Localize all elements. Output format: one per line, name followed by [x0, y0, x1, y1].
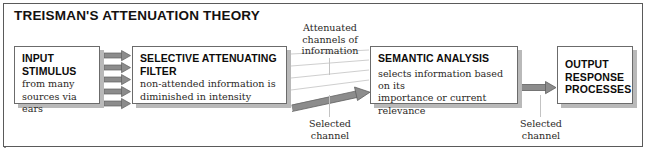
- selective-filter-heading: SELECTIVE ATTENUATING FILTER: [140, 52, 279, 77]
- input-stimulus-node: INPUT STIMULUS from many sources via ear…: [14, 46, 100, 104]
- output-response-heading-line1: OUTPUT: [565, 58, 625, 71]
- selected-channel-label-right: Selected channel: [504, 118, 578, 141]
- semantic-analysis-body-line1: selects information based on its: [378, 68, 510, 93]
- input-stimulus-body-line1: from many: [22, 78, 92, 90]
- selective-filter-body: non-attended information is diminished i…: [140, 78, 279, 103]
- selective-filter-heading-line2: FILTER: [140, 65, 279, 78]
- selected-channel-label-right-line2: channel: [504, 130, 578, 142]
- output-response-heading-line3: PROCESSES: [565, 83, 625, 96]
- attenuated-leader-line: [329, 58, 330, 75]
- semantic-analysis-heading: SEMANTIC ANALYSIS: [378, 52, 510, 65]
- attenuated-channels-label-line2: channels of: [286, 34, 374, 46]
- input-stimulus-heading: INPUT STIMULUS: [22, 52, 92, 77]
- selected-channel-label-left-line2: channel: [293, 130, 367, 142]
- selected-channel-label-left-line1: Selected: [293, 118, 367, 130]
- input-stimulus-heading-line1: INPUT: [22, 52, 92, 65]
- attenuated-channels-label-line3: information: [286, 45, 374, 57]
- attenuated-channels-label: Attenuated channels of information: [286, 22, 374, 57]
- attenuation-theory-diagram: TREISMAN'S ATTENUATION THEORY: [0, 0, 650, 156]
- selected-channel-arrow-right: [521, 82, 556, 94]
- selected-left-leader-line: [329, 95, 330, 117]
- semantic-analysis-heading-line1: SEMANTIC ANALYSIS: [378, 52, 510, 65]
- selective-filter-body-line2: diminished in intensity: [140, 91, 279, 103]
- selected-channel-arrow-left: [292, 87, 370, 112]
- attenuated-channels-label-line1: Attenuated: [286, 22, 374, 34]
- semantic-analysis-body-line2: importance or current relevance: [378, 92, 510, 117]
- selective-filter-node: SELECTIVE ATTENUATING FILTER non-attende…: [132, 46, 287, 104]
- semantic-analysis-node: SEMANTIC ANALYSIS selects information ba…: [370, 46, 518, 104]
- selective-filter-body-line1: non-attended information is: [140, 78, 279, 90]
- selected-right-leader-line: [540, 95, 541, 117]
- output-response-heading: OUTPUT RESPONSE PROCESSES: [565, 58, 625, 96]
- selected-channel-label-left: Selected channel: [293, 118, 367, 141]
- input-stimulus-heading-line2: STIMULUS: [22, 65, 92, 78]
- selected-channel-label-right-line1: Selected: [504, 118, 578, 130]
- selective-filter-heading-line1: SELECTIVE ATTENUATING: [140, 52, 279, 65]
- input-stimulus-body-line2: sources via ears: [22, 91, 92, 116]
- output-response-heading-line2: RESPONSE: [565, 71, 625, 84]
- semantic-analysis-body: selects information based on its importa…: [378, 68, 510, 118]
- output-response-node: OUTPUT RESPONSE PROCESSES: [557, 46, 633, 104]
- input-stimulus-body: from many sources via ears: [22, 78, 92, 115]
- input-to-filter-arrows: [104, 51, 131, 109]
